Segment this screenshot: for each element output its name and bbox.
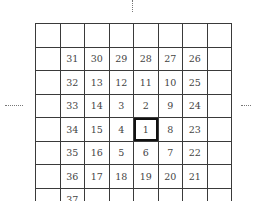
- grid-cell: 18: [109, 165, 134, 189]
- grid-cell: [158, 188, 183, 201]
- grid-row-7: 36 17 18 19 20 21: [36, 165, 232, 189]
- grid-cell: [183, 188, 208, 201]
- grid-cell: 32: [60, 71, 85, 95]
- grid-cell: 24: [183, 94, 208, 118]
- grid-cell: 30: [85, 47, 110, 71]
- grid-cell: [134, 24, 159, 48]
- grid-cell: [36, 141, 61, 165]
- grid-cell: [134, 188, 159, 201]
- left-ellipsis-dots: [5, 105, 23, 106]
- grid-cell: 26: [183, 47, 208, 71]
- grid-cell: 7: [158, 141, 183, 165]
- highlighted-center-cell: 1: [134, 118, 159, 142]
- grid-cell: 37: [60, 188, 85, 201]
- grid-cell: [36, 71, 61, 95]
- grid-cell: 2: [134, 94, 159, 118]
- grid-cell: 31: [60, 47, 85, 71]
- grid-cell: 27: [158, 47, 183, 71]
- grid-cell: 20: [158, 165, 183, 189]
- grid-cell: 35: [60, 141, 85, 165]
- grid-cell: 14: [85, 94, 110, 118]
- grid-cell: 13: [85, 71, 110, 95]
- grid-cell: [36, 188, 61, 201]
- grid-cell: [207, 188, 232, 201]
- grid-cell: 5: [109, 141, 134, 165]
- top-ellipsis-dots: [132, 0, 133, 12]
- grid-cell: [207, 94, 232, 118]
- grid-cell: 16: [85, 141, 110, 165]
- grid-cell: [60, 24, 85, 48]
- grid-cell: 4: [109, 118, 134, 142]
- grid-row-5: 34 15 4 1 8 23: [36, 118, 232, 142]
- grid-cell: 36: [60, 165, 85, 189]
- grid-cell: 12: [109, 71, 134, 95]
- grid-cell: 33: [60, 94, 85, 118]
- grid-cell: 21: [183, 165, 208, 189]
- grid-cell: [109, 24, 134, 48]
- grid-cell: 25: [183, 71, 208, 95]
- grid-cell: 17: [85, 165, 110, 189]
- grid-row-2: 31 30 29 28 27 26: [36, 47, 232, 71]
- grid-cell: [109, 188, 134, 201]
- grid-row-1: [36, 24, 232, 48]
- grid-cell: [207, 141, 232, 165]
- grid-cell: [207, 47, 232, 71]
- grid-cell: 6: [134, 141, 159, 165]
- grid-cell: [85, 24, 110, 48]
- grid-cell: 3: [109, 94, 134, 118]
- grid-cell: 23: [183, 118, 208, 142]
- grid-cell: 9: [158, 94, 183, 118]
- grid-cell: 19: [134, 165, 159, 189]
- grid-cell: [183, 24, 208, 48]
- right-ellipsis-dots: [241, 105, 251, 106]
- grid-cell: 28: [134, 47, 159, 71]
- grid-cell: 22: [183, 141, 208, 165]
- grid-row-4: 33 14 3 2 9 24: [36, 94, 232, 118]
- grid-cell: 11: [134, 71, 159, 95]
- number-spiral-grid: 31 30 29 28 27 26 32 13 12 11 10 25 33 1…: [35, 23, 232, 201]
- grid-cell: [36, 165, 61, 189]
- grid-cell: 34: [60, 118, 85, 142]
- grid-cell: [158, 24, 183, 48]
- grid-cell: [36, 94, 61, 118]
- grid-cell: [207, 165, 232, 189]
- grid-cell: [207, 118, 232, 142]
- grid-cell: 10: [158, 71, 183, 95]
- grid-cell: 8: [158, 118, 183, 142]
- grid-cell: [36, 24, 61, 48]
- grid-cell: 29: [109, 47, 134, 71]
- grid-row-8: 37: [36, 188, 232, 201]
- grid-row-6: 35 16 5 6 7 22: [36, 141, 232, 165]
- grid-cell: [36, 47, 61, 71]
- grid-cell: [207, 71, 232, 95]
- grid-cell: [85, 188, 110, 201]
- grid-cell: [207, 24, 232, 48]
- grid-row-3: 32 13 12 11 10 25: [36, 71, 232, 95]
- grid-cell: [36, 118, 61, 142]
- grid-cell: 15: [85, 118, 110, 142]
